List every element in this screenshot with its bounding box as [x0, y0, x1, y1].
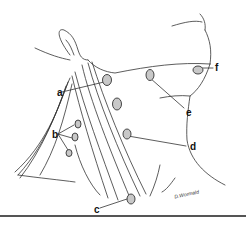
lymph-node-a	[103, 75, 112, 86]
ear-outline	[59, 30, 88, 60]
label-c: c	[94, 205, 100, 215]
lymph-node-b2	[72, 133, 78, 141]
label-b: b	[52, 130, 58, 140]
lymph-node-b3	[66, 150, 72, 157]
divider-rule	[0, 215, 246, 217]
pointer-e	[150, 78, 184, 108]
lymph-node-c	[127, 194, 135, 204]
pointer-a	[62, 82, 104, 92]
label-d: d	[190, 142, 196, 152]
lymph-node-e	[146, 70, 154, 81]
lymph-node-d	[123, 129, 131, 139]
pointer-d	[128, 136, 186, 146]
label-a: a	[57, 88, 63, 98]
lymph-node-f	[193, 66, 203, 74]
label-e: e	[186, 108, 192, 118]
neck-lymph-node-diagram	[0, 0, 246, 235]
lymph-node-b1	[75, 120, 81, 128]
label-f: f	[215, 63, 218, 73]
pointer-c	[100, 198, 130, 208]
